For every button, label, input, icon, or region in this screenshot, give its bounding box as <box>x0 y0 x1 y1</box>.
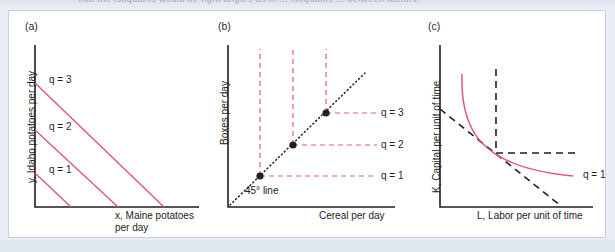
panel-a-y-axis-title: y, Idaho potatoes per day <box>26 71 37 183</box>
panel-b-label-q3: q = 3 <box>381 107 404 118</box>
panel-b-point-q3 <box>322 109 329 116</box>
panel-a-label-q1: q = 1 <box>49 164 72 175</box>
panel-c-axes <box>440 45 593 207</box>
panel-a-isoquant-q2 <box>35 130 118 207</box>
panel-b-plot <box>209 11 407 239</box>
figure-frame: (a) q = 3 q = 2 q = 1 y, Idaho potatoes … <box>8 10 606 238</box>
panel-c-y-axis-title: K, Capital per unit of time <box>431 81 442 193</box>
panel-b-point-q1 <box>256 172 263 179</box>
panel-c-x-axis-title: L, Labor per unit of time <box>477 210 583 222</box>
panel-a-plot <box>9 11 209 239</box>
panel-c-isoquant-q1 <box>462 74 573 176</box>
panel-c-label-q1: q = 1 <box>583 169 606 180</box>
figure-screenshot: that the isoquants would be right angles… <box>0 0 615 252</box>
panel-c-fixed-proportions-bound <box>496 69 579 153</box>
panel-b-point-q2 <box>289 141 296 148</box>
page-bottom-bleed <box>0 240 615 252</box>
panel-b-y-axis-title: Boxes per day <box>219 81 230 145</box>
panel-c: (c) q = 1 K, Capital per unit of time L,… <box>407 11 605 239</box>
panel-a-isoquant-q3 <box>35 83 164 207</box>
panel-b: (b) q = 3 q = 2 q <box>209 11 407 239</box>
panel-b-45-degree-label: 45° line <box>245 185 278 196</box>
cropped-header-text: that the isoquants would be right angles… <box>78 0 498 4</box>
panel-a: (a) q = 3 q = 2 q = 1 y, Idaho potatoes … <box>9 11 209 239</box>
panel-a-label-q2: q = 2 <box>49 121 72 132</box>
panel-b-label-q1: q = 1 <box>381 170 404 181</box>
panel-a-isoquant-q1 <box>35 173 71 207</box>
panel-a-x-axis-title-line2: per day <box>115 222 148 234</box>
panel-b-x-axis-title: Cereal per day <box>319 210 385 222</box>
panel-b-label-q2: q = 2 <box>381 139 404 150</box>
panel-a-label-q3: q = 3 <box>49 74 72 85</box>
panel-a-x-axis-title-line1: x, Maine potatoes <box>115 210 194 222</box>
